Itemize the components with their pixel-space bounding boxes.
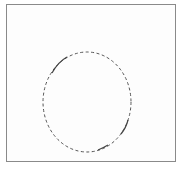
diagram-canvas	[0, 0, 183, 169]
ellipse-long-stroke-bottom	[98, 145, 108, 150]
ellipse-long-stroke-lower-right	[121, 120, 128, 134]
ellipse-long-stroke-upper-left	[52, 57, 67, 73]
